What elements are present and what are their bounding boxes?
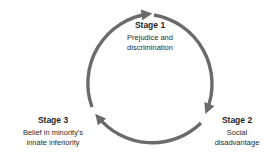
stage-3-title: Stage 3 — [8, 115, 98, 126]
stage-2-description: Social disadvantage — [203, 128, 271, 147]
stage-2: Stage 2 Social disadvantage — [203, 115, 271, 147]
stage-1-description: Prejudice and discrimination — [110, 33, 190, 52]
stage-1-title: Stage 1 — [110, 20, 190, 31]
stage-2-desc-line-2: disadvantage — [203, 138, 271, 148]
stage-3-description: Belief in minority's innate inferiority — [8, 128, 98, 147]
arrow-stage2-to-stage3 — [98, 117, 201, 143]
stage-3-desc-line-1: Belief in minority's — [8, 128, 98, 138]
stage-1: Stage 1 Prejudice and discrimination — [110, 20, 190, 52]
stage-3: Stage 3 Belief in minority's innate infe… — [8, 115, 98, 147]
stage-3-desc-line-2: innate inferiority — [8, 138, 98, 148]
stage-2-desc-line-1: Social — [203, 128, 271, 138]
stage-1-desc-line-1: Prejudice and — [110, 33, 190, 43]
stage-1-desc-line-2: discrimination — [110, 43, 190, 53]
stage-2-title: Stage 2 — [203, 115, 271, 126]
